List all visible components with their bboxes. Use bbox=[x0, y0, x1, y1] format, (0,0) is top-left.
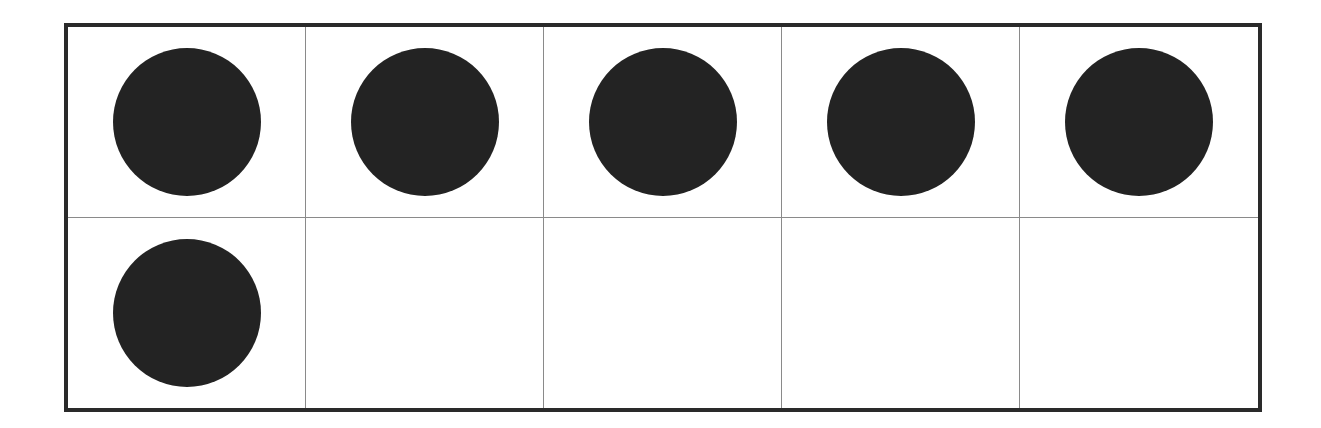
frame-cell bbox=[544, 27, 782, 218]
counter-dot-icon bbox=[113, 48, 261, 196]
ten-frame bbox=[64, 23, 1262, 412]
counter-dot-icon bbox=[827, 48, 975, 196]
frame-cell bbox=[782, 27, 1020, 218]
counter-dot-icon bbox=[351, 48, 499, 196]
counter-dot-icon bbox=[589, 48, 737, 196]
counter-dot-icon bbox=[113, 239, 261, 387]
frame-cell bbox=[1020, 218, 1258, 409]
frame-cell bbox=[1020, 27, 1258, 218]
counter-dot-icon bbox=[1065, 48, 1213, 196]
frame-cell bbox=[68, 218, 306, 409]
frame-cell bbox=[306, 27, 544, 218]
frame-cell bbox=[306, 218, 544, 409]
frame-cell bbox=[68, 27, 306, 218]
frame-cell bbox=[782, 218, 1020, 409]
frame-cell bbox=[544, 218, 782, 409]
